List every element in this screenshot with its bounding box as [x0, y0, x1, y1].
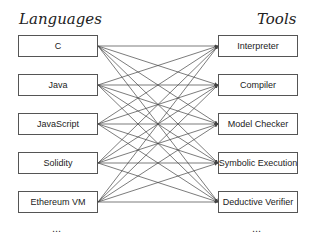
tool-box-symbolic-execution: Symbolic Execution: [218, 152, 298, 174]
tool-box-deductive-verifier: Deductive Verifier: [218, 191, 298, 213]
language-label: Java: [48, 80, 67, 90]
tool-label: Compiler: [240, 80, 276, 90]
tool-box-compiler: Compiler: [218, 74, 298, 96]
language-label: C: [55, 41, 62, 51]
tool-label: Interpreter: [237, 41, 279, 51]
language-label: Ethereum VM: [30, 197, 85, 207]
tools-ellipsis: ...: [252, 222, 261, 234]
tool-box-model-checker: Model Checker: [218, 113, 298, 135]
language-label: JavaScript: [37, 119, 79, 129]
language-box-javascript: JavaScript: [18, 113, 98, 135]
languages-ellipsis: ...: [52, 222, 61, 234]
tool-label: Symbolic Execution: [219, 158, 298, 168]
language-box-c: C: [18, 35, 98, 57]
language-box-java: Java: [18, 74, 98, 96]
languages-tools-diagram: Languages Tools C Java JavaScript Solidi…: [0, 0, 315, 241]
language-box-ethereum-vm: Ethereum VM: [18, 191, 98, 213]
tool-box-interpreter: Interpreter: [218, 35, 298, 57]
tool-label: Deductive Verifier: [223, 197, 294, 207]
language-label: Solidity: [43, 158, 72, 168]
tool-label: Model Checker: [228, 119, 289, 129]
language-box-solidity: Solidity: [18, 152, 98, 174]
